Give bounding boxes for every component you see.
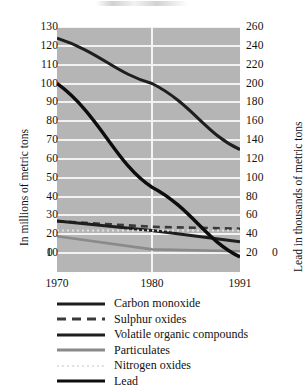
chart-legend: Carbon monoxideSulphur oxidesVolatile or… <box>57 296 297 389</box>
y-axis-left-title: In millions of metric tons <box>18 129 30 246</box>
y-tick-label-right: 160 <box>246 115 264 127</box>
legend-label: Lead <box>114 374 138 390</box>
y-tick-label-right: 260 <box>246 21 264 33</box>
y-tick-label-right: 140 <box>246 134 264 146</box>
legend-label: Particulates <box>114 343 170 359</box>
legend-item: Sulphur oxides <box>57 312 297 328</box>
y-tick-label-left: 60 <box>46 153 58 165</box>
legend-label: Volatile organic compounds <box>114 327 248 343</box>
y-tick-label-left: 40 <box>46 191 58 203</box>
legend-item: Nitrogen oxides <box>57 358 297 374</box>
title-remnant <box>96 1 188 6</box>
legend-swatch-particulates-icon <box>57 343 105 359</box>
y-tick-label-right: 40 <box>246 228 258 240</box>
y-tick-label-left: 50 <box>46 172 58 184</box>
legend-label: Carbon monoxide <box>114 296 200 312</box>
x-tick-label: 1970 <box>35 277 79 289</box>
y-axis-left-zero-label: 0 <box>47 247 53 259</box>
y-tick-label-left: 130 <box>40 21 58 33</box>
y-tick-label-right: 20 <box>246 247 258 259</box>
y-tick-label-right: 120 <box>246 153 264 165</box>
chart-figure: 1301201101009080706050403020100 26024022… <box>0 0 307 391</box>
y-tick-label-left: 90 <box>46 96 58 108</box>
y-tick-label-left: 110 <box>41 59 58 71</box>
y-tick-label-left: 70 <box>46 134 58 146</box>
x-tick-label: 1980 <box>130 277 174 289</box>
legend-swatch-nitrogen-oxides-icon <box>57 358 105 374</box>
legend-item: Volatile organic compounds <box>57 327 297 343</box>
legend-label: Sulphur oxides <box>114 312 186 328</box>
legend-item: Lead <box>57 374 297 390</box>
series-layer <box>57 27 240 272</box>
y-axis-right-title: Lead in thousands of metric tons <box>292 122 304 272</box>
legend-label: Nitrogen oxides <box>114 358 191 374</box>
y-axis-right-zero-label: 0 <box>272 247 278 259</box>
y-tick-label-right: 60 <box>246 209 258 221</box>
legend-swatch-volatile-organic-compounds-icon <box>57 327 105 343</box>
legend-item: Carbon monoxide <box>57 296 297 312</box>
x-tick-label: 1991 <box>218 277 262 289</box>
y-tick-label-right: 80 <box>246 191 258 203</box>
y-tick-label-right: 220 <box>246 59 264 71</box>
y-tick-label-left: 80 <box>46 115 58 127</box>
y-tick-label-right: 200 <box>246 78 264 90</box>
legend-swatch-carbon-monoxide-icon <box>57 296 105 312</box>
legend-swatch-sulphur-oxides-icon <box>57 312 105 328</box>
y-tick-label-left: 120 <box>40 40 58 52</box>
y-tick-label-left: 20 <box>46 228 58 240</box>
legend-item: Particulates <box>57 343 297 359</box>
y-tick-label-right: 240 <box>246 40 264 52</box>
y-tick-label-left: 30 <box>46 209 58 221</box>
y-tick-label-right: 100 <box>246 172 264 184</box>
legend-swatch-lead-icon <box>57 374 105 390</box>
y-tick-label-right: 180 <box>246 96 264 108</box>
plot-area <box>57 27 240 272</box>
y-tick-label-left: 100 <box>40 78 58 90</box>
series-line-carbon-monoxide <box>57 38 240 149</box>
